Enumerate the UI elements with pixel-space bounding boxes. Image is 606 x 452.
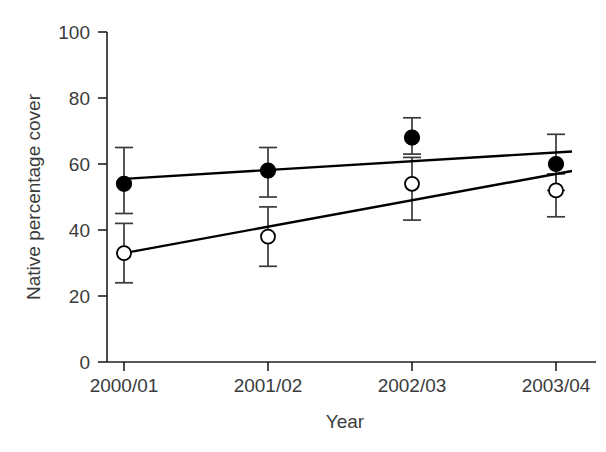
x-tick-label-3: 2002/03 xyxy=(378,375,447,396)
y-tick-label-0: 0 xyxy=(79,352,90,373)
y-tick-label-40: 40 xyxy=(69,220,90,241)
x-tick-label-1: 2000/01 xyxy=(90,375,159,396)
data-point-filled xyxy=(549,157,564,172)
chart-figure: 100 80 60 40 20 0 Native percentage cove… xyxy=(0,0,606,452)
data-point-filled xyxy=(261,163,276,178)
x-axis-title: Year xyxy=(326,411,365,432)
y-tick-label-80: 80 xyxy=(69,88,90,109)
data-point-filled xyxy=(117,176,132,191)
data-point-open xyxy=(261,230,275,244)
data-point-filled xyxy=(405,130,420,145)
data-point-open xyxy=(117,246,131,260)
scatter-plot-canvas: 100 80 60 40 20 0 Native percentage cove… xyxy=(0,0,606,452)
y-axis-title: Native percentage cover xyxy=(23,93,44,300)
y-tick-label-20: 20 xyxy=(69,286,90,307)
x-tick-label-2: 2001/02 xyxy=(234,375,303,396)
y-tick-label-60: 60 xyxy=(69,154,90,175)
x-tick-label-4: 2003/04 xyxy=(522,375,591,396)
y-tick-label-100: 100 xyxy=(58,22,90,43)
data-point-open xyxy=(405,177,419,191)
data-point-open xyxy=(549,183,563,197)
